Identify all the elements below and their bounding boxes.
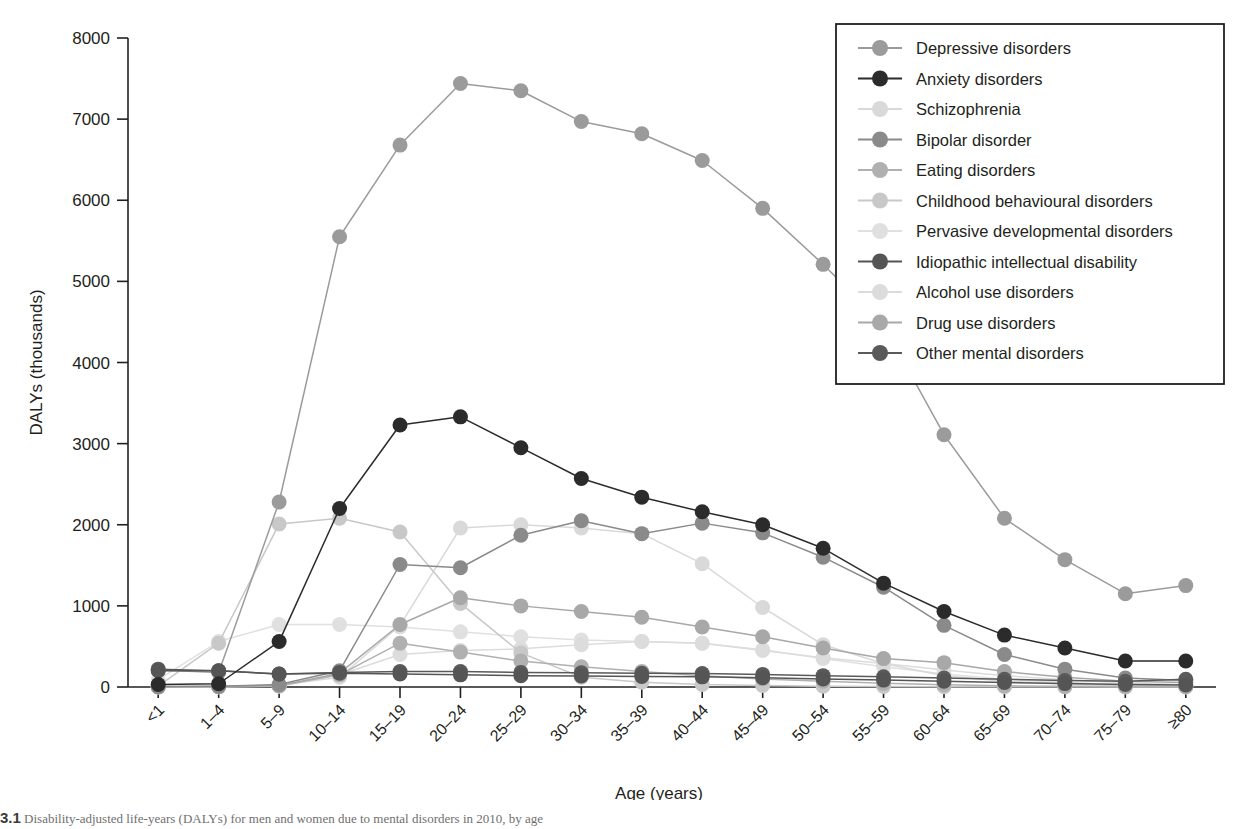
series-line [158, 417, 1186, 685]
data-point [1118, 677, 1133, 692]
data-point [513, 598, 528, 613]
data-point [393, 617, 408, 632]
data-point [997, 628, 1012, 643]
data-point [997, 647, 1012, 662]
data-point [151, 677, 166, 692]
legend-swatch-marker [872, 101, 888, 117]
x-axis-tick-label-12: 55–59 [849, 701, 893, 745]
data-point [876, 576, 891, 591]
x-axis-tick-label-17: ≥80 [1164, 701, 1195, 732]
y-axis-tick-label-6: 6000 [72, 191, 110, 210]
x-axis-tick-label-10: 45–49 [728, 701, 772, 745]
data-point [695, 556, 710, 571]
y-axis-title: DALYs (thousands) [27, 289, 46, 435]
data-point [272, 667, 287, 682]
data-point [513, 528, 528, 543]
y-axis-tick-label-0: 0 [101, 678, 110, 697]
series-childhood-behavioural-disorders [151, 511, 1194, 695]
data-point [453, 590, 468, 605]
data-point [755, 643, 770, 658]
data-point [574, 471, 589, 486]
data-point [876, 651, 891, 666]
legend-swatch-marker [872, 132, 888, 148]
series-line [158, 525, 1186, 687]
legend-item-label: Eating disorders [916, 161, 1035, 179]
data-point [211, 663, 226, 678]
data-point [937, 674, 952, 689]
data-point [816, 641, 831, 656]
data-point [1057, 676, 1072, 691]
data-point [453, 667, 468, 682]
x-axis-title: Age (years) [615, 784, 703, 800]
caption-text: Disability-adjusted life-years (DALYs) f… [24, 811, 543, 826]
data-point [695, 619, 710, 634]
legend-swatch-marker [872, 40, 888, 56]
data-point [634, 526, 649, 541]
series-schizophrenia [151, 517, 1194, 694]
legend-layer: Depressive disordersAnxiety disordersSch… [836, 24, 1224, 384]
x-axis-tick-label-6: 25–29 [487, 701, 531, 745]
data-point [1057, 641, 1072, 656]
figure-container: 010002000300040005000600070008000<11–45–… [0, 0, 1252, 829]
data-point [453, 409, 468, 424]
legend-item-label: Childhood behavioural disorders [916, 192, 1153, 210]
legend-swatch-marker [872, 345, 888, 361]
y-axis-tick-label-5: 5000 [72, 272, 110, 291]
data-point [513, 668, 528, 683]
y-axis-tick-label-7: 7000 [72, 110, 110, 129]
data-point [937, 618, 952, 633]
legend-item-label: Depressive disorders [916, 39, 1071, 57]
x-axis-tick-label-15: 70–74 [1031, 701, 1075, 745]
legend-item-label: Pervasive developmental disorders [916, 222, 1173, 240]
data-point [272, 495, 287, 510]
data-point [332, 666, 347, 681]
data-point [816, 671, 831, 686]
data-point [1057, 552, 1072, 567]
data-point [513, 440, 528, 455]
legend-item-label: Idiopathic intellectual disability [916, 253, 1138, 271]
data-point [393, 667, 408, 682]
data-point [695, 636, 710, 651]
data-point [393, 636, 408, 651]
legend-item-label: Drug use disorders [916, 314, 1055, 332]
legend-item-bipolar-disorder[interactable]: Bipolar disorder [858, 131, 1032, 149]
y-axis-tick-label-2: 2000 [72, 516, 110, 535]
data-point [755, 600, 770, 615]
data-point [574, 114, 589, 129]
data-point [695, 153, 710, 168]
data-point [1118, 654, 1133, 669]
data-point [997, 675, 1012, 690]
legend-item-schizophrenia[interactable]: Schizophrenia [858, 100, 1021, 118]
data-point [755, 517, 770, 532]
data-point [574, 637, 589, 652]
y-axis-tick-label-8: 8000 [72, 29, 110, 48]
legend-swatch-marker [872, 284, 888, 300]
x-axis-tick-label-9: 40–44 [668, 701, 712, 745]
legend-item-label: Anxiety disorders [916, 70, 1043, 88]
legend-swatch-marker [872, 193, 888, 209]
data-point [1178, 654, 1193, 669]
data-point [574, 669, 589, 684]
x-axis-tick-label-8: 35–39 [607, 701, 651, 745]
data-point [332, 229, 347, 244]
data-point [211, 636, 226, 651]
data-point [453, 76, 468, 91]
legend-item-label: Other mental disorders [916, 344, 1084, 362]
caption-number: 3.1 [0, 809, 21, 826]
data-point [513, 83, 528, 98]
data-point [393, 557, 408, 572]
data-point [453, 520, 468, 535]
data-point [816, 257, 831, 272]
data-point [1118, 586, 1133, 601]
legend-item-eating-disorders[interactable]: Eating disorders [858, 161, 1035, 179]
data-point [574, 513, 589, 528]
x-axis-tick-label-14: 65–69 [970, 701, 1014, 745]
x-axis-tick-label-16: 75–79 [1091, 701, 1135, 745]
legend-swatch-marker [872, 315, 888, 331]
data-point [755, 201, 770, 216]
data-point [755, 629, 770, 644]
data-point [937, 427, 952, 442]
data-point [1178, 578, 1193, 593]
data-point [1178, 677, 1193, 692]
y-axis-tick-label-4: 4000 [72, 354, 110, 373]
